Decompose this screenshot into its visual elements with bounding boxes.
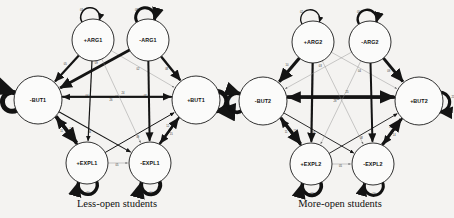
edge-weight-label: 24 — [122, 91, 125, 95]
edge — [148, 61, 149, 141]
state-node[interactable]: -EXPL1 — [129, 142, 171, 184]
state-node[interactable]: -ARG2 — [349, 21, 391, 63]
edge — [383, 58, 402, 81]
node-label: +BUT2 — [410, 98, 428, 104]
diagram-canvas: 0504020807092624111312150609050110080409… — [0, 0, 454, 218]
edge-weight-label: 26 — [110, 98, 113, 102]
node-label: -EXPL1 — [140, 160, 159, 166]
node-label: -ARG1 — [139, 37, 156, 43]
node-label: +ARG2 — [304, 39, 323, 45]
state-transition-figure: 0504020807092624111312150609050110080409… — [0, 0, 454, 218]
node-label: -BUT1 — [30, 97, 46, 103]
edge-weight-label: 06 — [312, 131, 315, 135]
edge-weight-label: 09 — [389, 125, 392, 129]
edge-weight-label: 03 — [319, 64, 322, 68]
edge-weight-label: 25 — [345, 90, 348, 94]
node-label: +EXPL2 — [301, 161, 322, 167]
edge-weight-label: 02 — [137, 67, 140, 71]
edge-weight-label: 11 — [285, 130, 288, 134]
edge-weight-label: 14 — [393, 133, 396, 137]
node-label: +ARG1 — [84, 37, 103, 43]
edge-weight-label: 05 — [64, 62, 67, 66]
edge-weight-label: 05 — [339, 164, 342, 168]
state-node[interactable]: +ARG2 — [292, 21, 334, 63]
node-label: +EXPL1 — [77, 160, 98, 166]
edge — [102, 59, 141, 143]
edge-weight-label: 10 — [285, 63, 288, 67]
state-node[interactable]: -ARG1 — [127, 19, 169, 61]
edge-weight-label: 13 — [293, 129, 296, 133]
node-label: -ARG2 — [361, 39, 378, 45]
edge-weight-label: 15 — [170, 132, 173, 136]
edge-weight-label: 12 — [166, 124, 169, 128]
edge — [279, 58, 299, 82]
edge — [321, 61, 361, 144]
captions-layer: Less-open studentsMore-open students — [77, 198, 382, 209]
panel-caption: Less-open students — [77, 198, 157, 209]
edge-weight-label: 05 — [115, 163, 118, 167]
state-node[interactable]: -BUT2 — [239, 77, 287, 125]
edge — [161, 56, 180, 80]
edge — [322, 61, 363, 144]
edge-weight-label: 13 — [70, 127, 73, 131]
edge — [311, 63, 312, 142]
edge-weight-label: 09 — [95, 61, 98, 65]
state-node[interactable]: +BUT2 — [395, 77, 443, 125]
node-label: -EXPL2 — [363, 161, 382, 167]
edge — [160, 118, 179, 144]
node-label: +BUT1 — [187, 97, 205, 103]
state-node[interactable]: -EXPL2 — [352, 143, 394, 185]
edge-weight-label: 08 — [360, 136, 363, 140]
state-node[interactable]: -BUT1 — [14, 76, 62, 124]
state-node[interactable]: +EXPL1 — [66, 142, 108, 184]
node-label: -BUT2 — [255, 98, 271, 104]
edge — [382, 119, 401, 145]
state-node[interactable]: +EXPL2 — [290, 143, 332, 185]
edge — [55, 55, 79, 81]
panel-caption: More-open students — [298, 198, 382, 209]
state-node[interactable]: +BUT1 — [172, 76, 220, 124]
edge-weight-label: 08 — [165, 67, 168, 71]
edge-weight-label: 06 — [88, 130, 91, 134]
edge-weight-label: 04 — [358, 69, 361, 73]
edge-weight-label: 09 — [387, 69, 390, 73]
state-node[interactable]: +ARG1 — [72, 19, 114, 61]
edge-weight-label: 11 — [60, 129, 63, 133]
